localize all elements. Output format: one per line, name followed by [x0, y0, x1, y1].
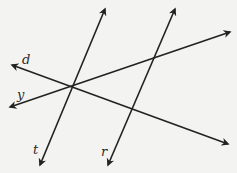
line-y	[10, 32, 230, 107]
label-t: t	[33, 143, 38, 156]
line-r	[108, 9, 175, 165]
label-r: r	[101, 145, 107, 158]
diagram-canvas: d y t r	[0, 0, 237, 173]
label-d: d	[22, 53, 30, 66]
line-d	[12, 65, 228, 144]
label-y: y	[17, 88, 24, 101]
